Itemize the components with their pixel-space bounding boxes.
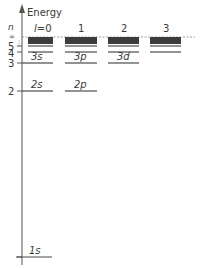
energy-level-diagram: Energy n l=0 1 2 3 ∞ ⋮ 5 4 3 2: [0, 0, 200, 269]
column-header-l1: 1: [78, 23, 84, 34]
axis-title: Energy: [27, 7, 62, 18]
orbital-label-3s: 3s: [31, 51, 43, 62]
column-header-l2: 2: [121, 23, 127, 34]
axis-ticks: [17, 46, 22, 257]
orbital-label-2p: 2p: [74, 79, 87, 90]
dots-label: ⋮: [16, 39, 22, 46]
axis-arrow-icon: [19, 4, 25, 13]
column-header-l0: l=0: [34, 23, 52, 34]
orbital-label-3d: 3d: [117, 51, 130, 62]
dense-levels: [28, 37, 181, 44]
column-header-l3: 3: [163, 23, 169, 34]
infinity-label: ∞: [9, 33, 15, 41]
n-label-3: 3: [8, 58, 14, 69]
orbital-label-1s: 1s: [29, 245, 41, 256]
orbital-label-3p: 3p: [74, 51, 87, 62]
n-axis-label: n: [8, 22, 14, 32]
n-label-2: 2: [8, 86, 14, 97]
orbital-label-2s: 2s: [31, 79, 43, 90]
